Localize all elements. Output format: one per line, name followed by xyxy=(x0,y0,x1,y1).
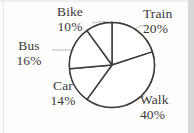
pie-label-walk-name: Walk xyxy=(140,92,192,107)
pie-label-train-name: Train xyxy=(143,6,193,21)
pie-label-car-name: Car xyxy=(41,78,85,93)
pie-label-train: Train 20% xyxy=(143,6,193,36)
pie-label-car-percent: 14% xyxy=(41,93,85,108)
pie-chart-screenshot: Bike 10% Train 20% Bus 16% Car 14% Walk … xyxy=(0,0,194,133)
pie-label-walk: Walk 40% xyxy=(140,92,192,122)
pie-label-train-percent: 20% xyxy=(143,21,193,36)
pie-label-car: Car 14% xyxy=(41,78,85,108)
pie-label-bike: Bike 10% xyxy=(47,4,93,34)
pie-label-bus: Bus 16% xyxy=(6,38,52,68)
pie-label-bus-percent: 16% xyxy=(6,53,52,68)
pie-label-bus-name: Bus xyxy=(6,38,52,53)
pie-label-walk-percent: 40% xyxy=(140,107,192,122)
pie-label-bike-percent: 10% xyxy=(47,19,93,34)
pie-label-bike-name: Bike xyxy=(47,4,93,19)
